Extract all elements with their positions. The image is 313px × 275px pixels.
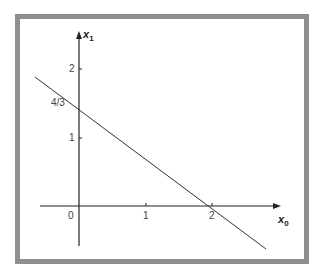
y-intercept-label: 4/3 [51, 98, 65, 108]
y-axis-arrow-icon [76, 31, 82, 39]
x-tick-label-2: 2 [209, 211, 215, 221]
y-axis-label: x1 [83, 29, 94, 43]
x-tick-label-0: 0 [68, 211, 74, 221]
y-axis-label-subscript: 1 [89, 34, 93, 43]
x-axis-arrow-icon [273, 203, 281, 209]
plot-canvas [0, 0, 313, 275]
x-axis-label: x0 [278, 214, 289, 228]
x-tick-label-1: 1 [143, 211, 149, 221]
y-tick-label-1: 1 [69, 133, 75, 143]
constraint-line [35, 77, 266, 249]
x-axis-label-subscript: 0 [284, 219, 288, 228]
y-tick-label-2: 2 [69, 64, 75, 74]
